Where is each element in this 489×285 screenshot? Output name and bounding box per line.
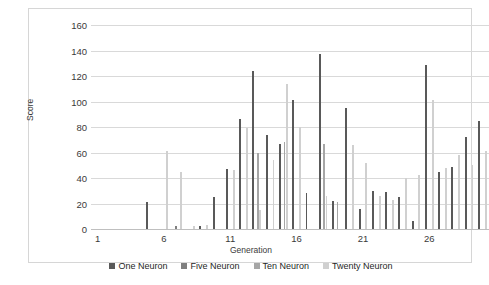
x-axis-title: Generation [29,245,473,255]
x-axis-tick-label: 11 [225,233,235,244]
legend-label: Twenty Neuron [332,261,393,271]
legend-swatch-icon [323,263,329,269]
bar-group [370,25,383,229]
bar [465,137,467,229]
bar [379,196,381,229]
bar-group [197,25,210,229]
bar [213,197,215,229]
legend-swatch-icon [181,263,187,269]
bar [438,172,440,229]
bar-group [356,25,369,229]
x-axis-tick-label: 21 [358,233,369,244]
y-axis-tick-label: 40 [47,173,87,184]
y-axis-tick-label: 160 [47,20,87,31]
legend-item[interactable]: Ten Neuron [254,261,310,271]
bar-group [144,25,157,229]
bar-group [476,25,489,229]
y-axis-tick-label: 80 [47,122,87,133]
bar [180,172,182,229]
bar [252,71,254,229]
chart-container: Score 020406080100120140160 1611162126 G… [28,8,472,263]
bar [359,209,361,229]
bar [412,221,414,229]
bar [273,160,275,229]
legend-item[interactable]: Five Neuron [181,261,239,271]
bar-group [157,25,170,229]
bar [458,155,460,229]
bar [365,163,367,229]
bar-group [383,25,396,229]
x-axis-tick-label: 6 [161,233,166,244]
bar [478,121,480,229]
bar-group [184,25,197,229]
legend-label: One Neuron [118,261,167,271]
y-axis-tick-label: 120 [47,71,87,82]
y-axis-tick-label: 100 [47,96,87,107]
bar [345,108,347,229]
bar [392,200,394,229]
bar-group [91,25,104,229]
bar-group [210,25,223,229]
bar [425,65,427,229]
bar [445,168,447,229]
bar [398,197,400,229]
bar-group [118,25,131,229]
bar [372,191,374,229]
bar-group [343,25,356,229]
y-axis-ticks: 020406080100120140160 [43,25,87,229]
legend-label: Five Neuron [190,261,239,271]
bar [166,151,168,229]
bar-group [317,25,330,229]
bar-group [171,25,184,229]
bar [239,119,241,229]
bar [451,167,453,229]
bar [233,170,235,229]
bar [432,100,434,229]
bar [306,193,308,229]
bar-group [449,25,462,229]
legend-swatch-icon [109,263,115,269]
y-axis-tick-label: 60 [47,147,87,158]
legend-item[interactable]: Twenty Neuron [323,261,393,271]
bar [485,151,487,229]
bar [299,127,301,229]
x-axis-tick-label: 16 [291,233,302,244]
y-axis-title: Score [25,99,35,121]
plot-area [91,25,489,229]
bar-group [250,25,263,229]
bar [326,196,328,229]
bar [319,54,321,229]
bar-group [131,25,144,229]
x-axis-tick-label: 26 [424,233,435,244]
bar [146,202,148,229]
chart-legend: One NeuronFive NeuronTen NeuronTwenty Ne… [29,259,473,273]
legend-swatch-icon [254,263,260,269]
legend-label: Ten Neuron [263,261,310,271]
bar [292,100,294,229]
bar-group [409,25,422,229]
bar-group [423,25,436,229]
x-axis-line [91,229,489,230]
bar-group [277,25,290,229]
bar-group [104,25,117,229]
bar-group [330,25,343,229]
legend-item[interactable]: One Neuron [109,261,167,271]
bar-group [396,25,409,229]
bar-group [462,25,475,229]
bar [352,145,354,229]
bar-group [224,25,237,229]
bar-group [263,25,276,229]
bar [472,165,474,229]
bar [405,178,407,229]
bar-group [290,25,303,229]
y-axis-tick-label: 0 [47,224,87,235]
bar [337,202,339,229]
bar [286,84,288,229]
bar-group [237,25,250,229]
bar [332,201,334,229]
bar [266,135,268,229]
bar-group [303,25,316,229]
bar-group [436,25,449,229]
x-axis-tick-label: 1 [95,233,100,244]
bar [226,169,228,229]
